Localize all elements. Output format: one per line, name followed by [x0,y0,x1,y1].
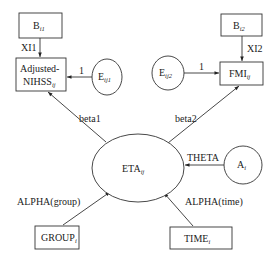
label-alpha-group: ALPHA(group) [17,196,80,208]
node-a-i: Ai [224,146,262,184]
node-eta: ETAij [92,134,184,202]
label-theta: THETA [187,152,220,163]
node-b-i2: Bi2 [221,14,262,36]
svg-text:Adjusted-: Adjusted- [20,63,59,74]
label-beta2: beta2 [175,113,197,124]
svg-text:GROUPi: GROUPi [41,232,77,244]
node-e-ij1: Eij1 [92,59,122,95]
path-diagram: XI1 1 XI2 1 beta1 beta2 THETA ALPHA(grou… [0,0,276,259]
node-time: TIMEi [170,227,232,249]
node-b-i1: Bi1 [19,13,62,38]
label-beta1: beta1 [79,113,101,124]
label-alpha-time: ALPHA(time) [185,196,243,208]
node-fmi: FMIij [220,62,263,85]
svg-text:NIHSSij: NIHSSij [23,76,56,88]
label-e2: 1 [199,61,204,72]
node-e-ij2: Eij2 [152,56,184,90]
label-xi1: XI1 [21,42,37,53]
node-group: GROUPi [35,226,79,249]
label-xi2: XI2 [247,43,263,54]
node-adjusted-nihss: Adjusted- NIHSSij [16,58,66,91]
label-e1: 1 [79,65,84,76]
svg-text:TIMEi: TIMEi [184,233,210,245]
